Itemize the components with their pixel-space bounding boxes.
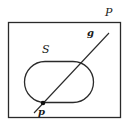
label-plane-p: P [104, 6, 113, 19]
label-set-s: S [42, 43, 50, 56]
label-line-g: g [87, 27, 94, 38]
plane-rectangle [9, 23, 121, 118]
label-point-p: p [38, 106, 45, 117]
point-p-dot [41, 101, 46, 106]
set-s-stadium [25, 62, 94, 103]
geometry-diagram: P S g p [0, 0, 130, 122]
